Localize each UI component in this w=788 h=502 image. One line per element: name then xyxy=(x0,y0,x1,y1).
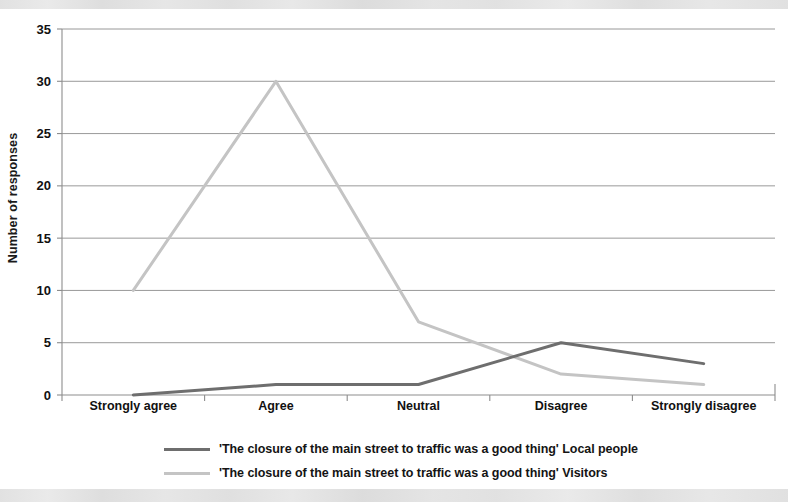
series-line xyxy=(133,81,703,384)
y-axis-tick-label: 10 xyxy=(15,284,51,297)
chart-legend: 'The closure of the main street to traff… xyxy=(0,437,788,485)
x-axis-tick-label: Strongly agree xyxy=(62,400,205,413)
axis-lines xyxy=(62,29,775,395)
y-axis-ticks xyxy=(57,29,62,395)
y-axis-tick-label: 15 xyxy=(15,232,51,245)
y-axis-tick-label: 25 xyxy=(15,127,51,140)
legend-line-swatch xyxy=(164,472,210,475)
legend-item[interactable]: 'The closure of the main street to traff… xyxy=(0,461,788,485)
legend-label: 'The closure of the main street to traff… xyxy=(219,442,638,456)
plot-canvas xyxy=(0,0,788,502)
y-axis-tick-label: 30 xyxy=(15,75,51,88)
legend-line-swatch xyxy=(164,448,210,451)
series-line xyxy=(133,343,703,395)
y-axis-tick-label: 35 xyxy=(15,23,51,36)
x-axis-tick-label: Disagree xyxy=(490,400,633,413)
x-axis-tick-label: Neutral xyxy=(347,400,490,413)
y-axis-tick-label: 20 xyxy=(15,179,51,192)
line-chart: Number of responses 05101520253035 Stron… xyxy=(0,0,788,502)
legend-item[interactable]: 'The closure of the main street to traff… xyxy=(0,437,788,461)
legend-label: 'The closure of the main street to traff… xyxy=(219,466,607,480)
y-axis-tick-label: 0 xyxy=(15,389,51,402)
gridlines xyxy=(62,29,775,395)
y-axis-tick-label: 5 xyxy=(15,336,51,349)
x-axis-tick-label: Agree xyxy=(205,400,348,413)
chart-figure: Number of responses 05101520253035 Stron… xyxy=(0,0,788,502)
x-axis-tick-label: Strongly disagree xyxy=(632,400,775,413)
